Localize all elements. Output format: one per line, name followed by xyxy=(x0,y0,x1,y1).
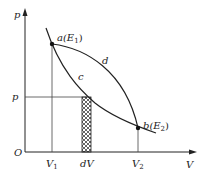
origin-label: O xyxy=(14,147,22,158)
v2-tick-label: V2 xyxy=(132,158,144,171)
curve-c xyxy=(46,28,156,133)
pv-diagram: p V O a(E1) b(E2) c d p V1 dV V2 xyxy=(0,0,207,173)
y-axis-arrow-icon xyxy=(23,8,28,16)
x-axis xyxy=(25,150,197,155)
dv-hatched-strip xyxy=(82,97,91,152)
point-a xyxy=(50,42,54,46)
y-axis-label: p xyxy=(14,9,21,20)
point-b xyxy=(136,126,140,130)
p-tick-label: p xyxy=(12,91,19,102)
y-axis xyxy=(23,8,28,152)
point-b-label: b(E2) xyxy=(143,120,169,133)
x-axis-arrow-icon xyxy=(189,150,197,155)
x-axis-label: V xyxy=(186,159,195,170)
v1-tick-label: V1 xyxy=(46,158,58,171)
curve-c-label: c xyxy=(78,71,84,82)
dv-tick-label: dV xyxy=(80,158,95,169)
point-a-label: a(E1) xyxy=(57,32,83,45)
curve-d-label: d xyxy=(102,55,108,66)
curve-d xyxy=(52,44,138,128)
